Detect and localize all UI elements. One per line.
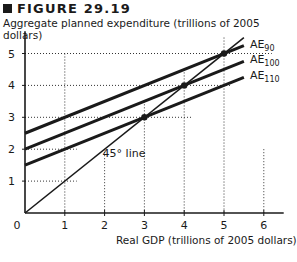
label-ae110: AE110 [250,69,280,84]
label-ae90: AE90 [250,38,275,53]
equilibrium-point [181,82,187,88]
x-tick-label: 6 [260,219,267,232]
line-ae100 [25,61,244,149]
y-tick-label: 4 [8,79,15,92]
line-45-label: 45° line [103,147,146,160]
x-tick-label: 0 [14,219,21,232]
y-tick-label: 5 [8,48,15,61]
line-45-degree [25,38,244,213]
y-tick-label: 1 [8,175,15,188]
equilibrium-point [141,114,147,120]
y-tick-label: 3 [8,111,15,124]
x-tick-label: 4 [181,219,188,232]
x-tick-label: 2 [101,219,108,232]
equilibrium-point [221,50,227,56]
x-tick-label: 5 [221,219,228,232]
x-tick-label: 1 [61,219,68,232]
x-axis-label: Real GDP (trillions of 2005 dollars) [116,234,297,246]
label-ae100: AE100 [250,53,280,68]
chart-plot: 012345612345AE90AE100AE11045° line [0,0,297,262]
x-tick-label: 3 [141,219,148,232]
y-tick-label: 2 [8,143,15,156]
